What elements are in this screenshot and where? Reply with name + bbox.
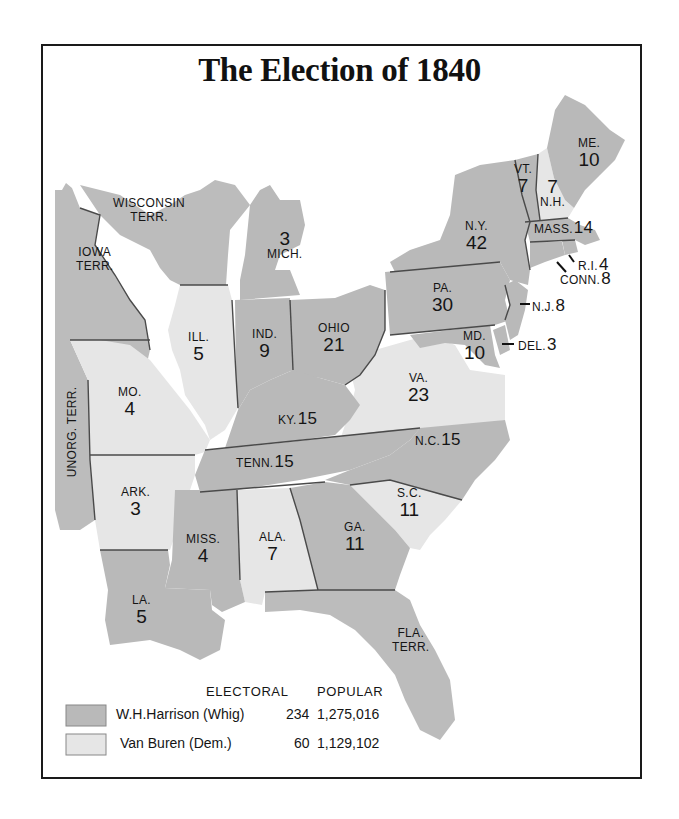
electoral-votes: 11 [344, 534, 366, 553]
electoral-votes: 21 [318, 335, 350, 354]
electoral-votes: 4 [118, 399, 142, 418]
legend-candidate: W.H.Harrison (Whig) [116, 706, 244, 722]
legend-header-popular: POPULAR [317, 684, 383, 699]
state-abbr: MISS. [186, 533, 220, 545]
label-delaware: DEL.3 [518, 336, 557, 353]
label-ohio: OHIO21 [318, 322, 350, 354]
state-abbr: ILL. [188, 331, 209, 343]
label-illinois: ILL.5 [188, 331, 209, 363]
label-unorganized-territory: UNORG. TERR. [66, 384, 78, 480]
electoral-votes: 23 [408, 385, 429, 404]
label-arkansas: ARK.3 [121, 486, 150, 518]
legend-row-harrison: W.H.Harrison (Whig) 234 1,275,016 [64, 703, 424, 725]
state-abbr: VT. [514, 163, 532, 175]
label-kentucky: KY.15 [278, 410, 317, 427]
electoral-votes: 3 [121, 499, 150, 518]
electoral-votes: 8 [601, 269, 611, 288]
label-new-york: N.Y.42 [465, 220, 488, 252]
electoral-votes: 14 [574, 218, 594, 237]
label-wisconsin-territory: WISCONSINTERR. [113, 197, 185, 223]
electoral-votes: 15 [275, 452, 295, 471]
state-abbr: S.C. [397, 487, 422, 499]
state-abbr: VA. [408, 372, 429, 384]
territory-name: UNORG. TERR. [66, 384, 78, 480]
label-michigan: 3MICH. [267, 228, 303, 260]
state-abbr: PA. [432, 282, 453, 294]
territory-suffix: TERR. [113, 211, 185, 223]
legend-electoral: 60 [294, 735, 310, 751]
label-connecticut: CONN.8 [560, 270, 611, 287]
legend-row-van-buren: Van Buren (Dem.) 60 1,129,102 [64, 732, 424, 754]
electoral-votes: 15 [441, 430, 461, 449]
label-indiana: IND.9 [252, 328, 277, 360]
electoral-votes: 9 [252, 341, 277, 360]
state-abbr: DEL. [518, 339, 546, 353]
electoral-votes: 4 [186, 546, 220, 565]
territory-suffix: TERR. [392, 641, 430, 653]
state-abbr: N.C. [415, 434, 440, 448]
electoral-votes: 5 [132, 607, 151, 626]
electoral-votes: 3 [267, 229, 303, 248]
label-north-carolina: N.C.15 [415, 431, 461, 448]
label-louisiana: LA.5 [132, 594, 151, 626]
label-maine: ME.10 [578, 137, 600, 169]
electoral-votes: 30 [432, 295, 453, 314]
label-iowa-territory: IOWATERR. [76, 246, 114, 272]
electoral-votes: 15 [298, 409, 318, 428]
territory-name: WISCONSIN [113, 197, 185, 209]
state-abbr: MD. [463, 330, 486, 342]
state-abbr: MICH. [267, 248, 303, 260]
state-abbr: N.Y. [465, 220, 488, 232]
state-abbr: KY. [278, 413, 297, 427]
state-abbr: GA. [344, 521, 366, 533]
state-abbr: ALA. [259, 531, 286, 543]
leader-ri [569, 255, 574, 262]
state-abbr: MO. [118, 386, 142, 398]
label-vermont: VT.7 [514, 163, 532, 195]
state-abbr: IND. [252, 328, 277, 340]
electoral-votes: 10 [463, 343, 486, 362]
label-missouri: MO.4 [118, 386, 142, 418]
state-abbr: N.J. [532, 300, 555, 314]
electoral-votes: 7 [514, 176, 532, 195]
label-virginia: VA.23 [408, 372, 429, 404]
legend-popular: 1,129,102 [317, 735, 379, 751]
electoral-votes: 3 [547, 335, 557, 354]
territory-suffix: TERR. [76, 260, 114, 272]
label-pennsylvania: PA.30 [432, 282, 453, 314]
electoral-votes: 7 [540, 177, 565, 196]
state-abbr: LA. [132, 594, 151, 606]
legend-popular: 1,275,016 [317, 706, 379, 722]
label-mississippi: MISS.4 [186, 533, 220, 565]
electoral-votes: 42 [465, 233, 488, 252]
state-abbr: TENN. [236, 456, 274, 470]
electoral-votes: 5 [188, 344, 209, 363]
legend-electoral: 234 [286, 706, 309, 722]
state-abbr: OHIO [318, 322, 350, 334]
electoral-votes: 10 [578, 150, 600, 169]
label-georgia: GA.11 [344, 521, 366, 553]
electoral-votes: 8 [556, 296, 566, 315]
label-tennessee: TENN.15 [236, 453, 294, 470]
label-new-jersey: N.J.8 [532, 297, 565, 314]
label-massachusetts: MASS.14 [534, 219, 593, 236]
label-south-carolina: S.C.11 [397, 487, 422, 519]
label-maryland: MD.10 [463, 330, 486, 362]
state-abbr: CONN. [560, 273, 600, 287]
label-alabama: ALA.7 [259, 531, 286, 563]
territory-name: FLA. [392, 627, 430, 639]
state-abbr: ARK. [121, 486, 150, 498]
electoral-votes: 11 [397, 500, 422, 519]
label-new-hampshire: 7N.H. [540, 176, 565, 208]
territory-name: IOWA [76, 246, 114, 258]
state-abbr: ME. [578, 137, 600, 149]
state-abbr: MASS. [534, 222, 573, 236]
state-abbr: N.H. [540, 196, 565, 208]
electoral-votes: 7 [259, 544, 286, 563]
label-florida-territory: FLA.TERR. [392, 627, 430, 653]
legend-candidate: Van Buren (Dem.) [120, 735, 232, 751]
legend-header-electoral: ELECTORAL [206, 684, 288, 699]
